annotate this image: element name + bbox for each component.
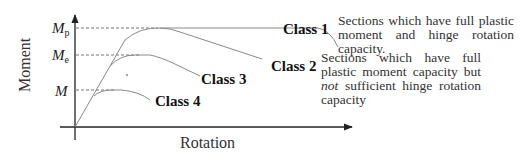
class-1-label: Class 1 [283, 21, 328, 37]
class-4-label: Class 4 [155, 93, 201, 109]
class-3-curve [110, 55, 200, 76]
class-2-description: Sections which have full plastic moment … [321, 51, 481, 107]
class-3-label: Class 3 [201, 71, 246, 87]
me-label: Me [51, 47, 70, 65]
class-2-label: Class 2 [271, 58, 316, 74]
class-2-curve [160, 28, 262, 59]
class-2-description-emphasis: not [321, 78, 338, 93]
m-label: M [54, 83, 69, 99]
stray-dot [126, 74, 128, 76]
class-4-curve [94, 90, 150, 100]
mp-label: Mp [51, 20, 70, 38]
class-2-description-text-a: Sections which have full plastic moment … [321, 50, 481, 79]
class-2-description-text-b: sufficient hinge rotation capacity [321, 78, 481, 107]
x-axis-label: Rotation [180, 134, 235, 151]
y-axis-label: Moment [16, 37, 33, 92]
